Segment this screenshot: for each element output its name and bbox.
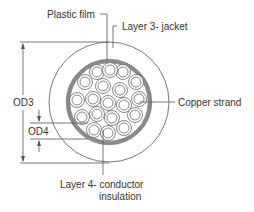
od4-label: OD4 [28, 126, 49, 137]
copper-strand-label: Copper strand [178, 97, 241, 108]
plastic-film-label: Plastic film [47, 9, 95, 20]
insulation-label-line2: insulation [99, 191, 141, 202]
insulation-label-line1: Layer 4- conductor [60, 179, 144, 190]
jacket-leader [113, 26, 117, 48]
od3-label: OD3 [13, 97, 34, 108]
jacket-label: Layer 3- jacket [122, 21, 188, 32]
cable-cross-section-diagram: Plastic film Layer 3- jacket Copper stra… [0, 0, 254, 212]
plastic-film-leader [100, 14, 107, 60]
